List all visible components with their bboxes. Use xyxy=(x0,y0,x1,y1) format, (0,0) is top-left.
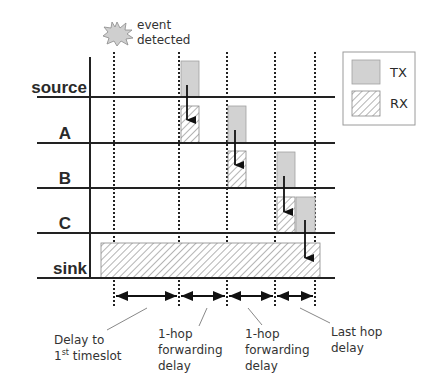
svg-text:1-hop: 1-hop xyxy=(245,327,280,341)
starburst-icon xyxy=(103,22,133,46)
row-label-c: C xyxy=(59,214,71,233)
svg-text:Delay to: Delay to xyxy=(54,333,104,347)
row-label-sink: sink xyxy=(53,259,88,278)
svg-text:delay: delay xyxy=(245,359,278,373)
row-label-b: B xyxy=(59,169,71,188)
a-tx-block xyxy=(228,106,246,143)
svg-text:delay: delay xyxy=(331,341,364,355)
c-rx-block xyxy=(277,197,295,233)
source-tx-block xyxy=(181,61,199,97)
row-label-a: A xyxy=(59,124,71,143)
legend: TX RX xyxy=(343,52,415,125)
svg-text:delay: delay xyxy=(158,359,191,373)
leader-lines xyxy=(107,308,330,330)
event-label-line2: detected xyxy=(137,33,190,47)
event-label-line1: event xyxy=(137,18,171,32)
legend-rx-swatch xyxy=(352,91,380,116)
annotation-delay-first: Delay to 1st timeslot xyxy=(54,333,122,363)
annotation-hop2: 1-hop forwarding delay xyxy=(245,327,310,373)
legend-tx-label: TX xyxy=(389,65,407,80)
svg-text:forwarding: forwarding xyxy=(158,343,223,357)
annotation-last-hop: Last hop delay xyxy=(331,325,382,355)
legend-rx-label: RX xyxy=(390,96,408,111)
row-label-source: source xyxy=(31,78,87,97)
a-rx-block xyxy=(181,106,199,143)
sink-rx-block xyxy=(101,243,320,278)
svg-text:1-hop: 1-hop xyxy=(158,327,193,341)
timing-diagram: event detected source A B C sink xyxy=(0,0,439,392)
svg-text:1st timeslot: 1st timeslot xyxy=(54,348,122,363)
b-tx-block xyxy=(277,152,295,188)
svg-text:Last hop: Last hop xyxy=(331,325,382,339)
svg-text:forwarding: forwarding xyxy=(245,343,310,357)
legend-tx-swatch xyxy=(352,60,380,84)
annotation-hop1: 1-hop forwarding delay xyxy=(158,327,223,373)
b-rx-block xyxy=(228,151,246,188)
